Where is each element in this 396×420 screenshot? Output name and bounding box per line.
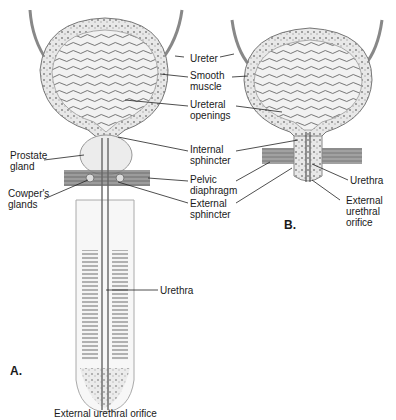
label-b-urethra: Urethra xyxy=(350,175,383,186)
label-a-urethra: Urethra xyxy=(160,285,193,296)
anatomy-diagram: Ureter Smooth muscle Ureteral openings I… xyxy=(0,0,396,420)
label-smooth-muscle: Smooth muscle xyxy=(190,70,224,92)
label-ureteral-openings: Ureteral openings xyxy=(190,99,231,121)
panel-b-drawing xyxy=(232,20,382,182)
label-cowpers-glands: Cowper's glands xyxy=(8,188,49,210)
panel-label-a: A. xyxy=(10,364,22,378)
panel-a-drawing xyxy=(30,10,182,412)
label-a-external-urethral-orifice: External urethral orifice xyxy=(54,408,157,419)
label-external-sphincter: External sphincter xyxy=(190,198,231,220)
label-ureter: Ureter xyxy=(190,53,218,64)
label-internal-sphincter: Internal sphincter xyxy=(190,144,231,166)
label-pelvic-diaphragm: Pelvic diaphragm xyxy=(190,174,237,196)
label-prostate-gland: Prostate gland xyxy=(10,150,47,172)
label-b-external-urethral-orifice: External urethral orifice xyxy=(346,195,383,228)
panel-label-b: B. xyxy=(284,218,296,232)
